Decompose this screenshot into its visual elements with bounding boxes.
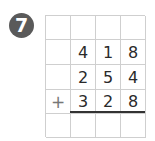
grid-cell (46, 40, 71, 65)
answer-cell[interactable] (46, 114, 71, 138)
digit-ones: 4 (121, 65, 146, 90)
digit-ones: 8 (121, 40, 146, 65)
sum-line (70, 111, 145, 113)
problem-number-badge: 7 (9, 13, 34, 38)
grid-cell (121, 16, 146, 40)
answer-cell[interactable] (121, 114, 146, 138)
digit-hundreds: 4 (71, 40, 96, 65)
grid-cell (46, 65, 71, 90)
digit-tens: 5 (96, 65, 121, 90)
grid-cell (96, 16, 121, 40)
digit-tens: 1 (96, 40, 121, 65)
grid-cell (71, 16, 96, 40)
digit-hundreds: 2 (71, 65, 96, 90)
answer-cell[interactable] (96, 114, 121, 138)
addition-grid: 4 1 8 2 5 4 + 3 2 8 (45, 15, 145, 137)
plus-sign: + (46, 90, 71, 114)
grid-cell (46, 16, 71, 40)
answer-cell[interactable] (71, 114, 96, 138)
